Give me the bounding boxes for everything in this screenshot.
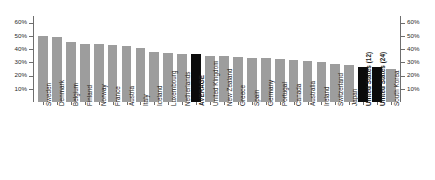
x-axis-label-luxembourg: Luxembourg bbox=[171, 70, 177, 106]
x-axis-label-united-states-24: United States (24) bbox=[380, 52, 386, 106]
y-axis-label-right-10pct: 10% bbox=[407, 86, 419, 92]
x-axis-label-germany: Germany bbox=[268, 80, 274, 106]
x-axis-label-australia: Australia bbox=[310, 81, 316, 106]
x-axis-label-average: AVERAGE bbox=[199, 75, 205, 106]
x-axis-label-spain: Spain bbox=[254, 90, 260, 106]
y-axis-label-left-60pct: 60% bbox=[15, 19, 27, 25]
x-axis-label-portugal: Portugal bbox=[282, 82, 288, 106]
x-axis-label-japan: Japan bbox=[352, 89, 358, 106]
y-axis-label-right-50pct: 50% bbox=[407, 33, 419, 39]
y-axis-tick-right-60pct bbox=[401, 23, 405, 24]
y-axis-tick-right-10pct bbox=[401, 89, 405, 90]
y-axis-tick-left-60pct bbox=[29, 23, 33, 24]
y-axis-label-left-10pct: 10% bbox=[15, 86, 27, 92]
x-axis-label-netherlands: Netherlands bbox=[185, 71, 191, 106]
y-axis-tick-right-20pct bbox=[401, 76, 405, 77]
y-axis-tick-right-40pct bbox=[401, 49, 405, 50]
x-axis-tick-25 bbox=[391, 102, 392, 105]
x-axis-label-united-kingdom: United Kingdom bbox=[213, 60, 219, 106]
x-axis-label-sweden: Sweden bbox=[46, 83, 52, 106]
bar-chart: 10%20%30%40%50%60% 10%20%30%40%50%60% Sw… bbox=[0, 0, 435, 180]
y-axis-label-right-30pct: 30% bbox=[407, 59, 419, 65]
x-axis-label-italy: Italy bbox=[143, 94, 149, 106]
y-axis-label-left-50pct: 50% bbox=[15, 33, 27, 39]
x-axis-tick-13 bbox=[224, 102, 225, 105]
y-axis-tick-left-20pct bbox=[29, 76, 33, 77]
y-axis-tick-left-40pct bbox=[29, 49, 33, 50]
x-axis-label-belgium: Belgium bbox=[73, 83, 79, 106]
x-axis-tick-12 bbox=[210, 102, 211, 105]
y-axis-label-right-40pct: 40% bbox=[407, 46, 419, 52]
x-axis-label-finland: Finland bbox=[87, 85, 93, 106]
x-axis-label-austria: Austria bbox=[129, 86, 135, 106]
x-axis-label-greece: Greece bbox=[240, 85, 246, 106]
x-axis-label-denmark: Denmark bbox=[59, 80, 65, 106]
x-axis-label-norway: Norway bbox=[101, 84, 107, 106]
y-axis-label-left-30pct: 30% bbox=[15, 59, 27, 65]
x-axis-tick-0 bbox=[43, 102, 44, 105]
x-axis-label-switzerland: Switzerland bbox=[338, 73, 344, 106]
x-axis-label-new-zealand: New Zealand bbox=[227, 68, 233, 106]
x-axis-label-france: France bbox=[115, 86, 121, 106]
x-axis-tick-11 bbox=[196, 102, 197, 105]
x-axis-label-canada: Canada bbox=[296, 84, 302, 106]
y-axis-tick-left-30pct bbox=[29, 62, 33, 63]
y-axis-label-right-60pct: 60% bbox=[407, 19, 419, 25]
y-axis-label-left-20pct: 20% bbox=[15, 72, 27, 78]
x-axis-tick-24 bbox=[377, 102, 378, 105]
x-axis-label-united-states-12: United States (12) bbox=[366, 52, 372, 106]
y-axis-left: 10%20%30%40%50%60% bbox=[33, 16, 34, 102]
y-axis-tick-right-50pct bbox=[401, 36, 405, 37]
y-axis-label-right-20pct: 20% bbox=[407, 72, 419, 78]
y-axis-tick-right-30pct bbox=[401, 62, 405, 63]
x-axis-label-south-korea: South Korea bbox=[394, 70, 400, 106]
y-axis-tick-left-10pct bbox=[29, 89, 33, 90]
y-axis-label-left-40pct: 40% bbox=[15, 46, 27, 52]
y-axis-tick-left-50pct bbox=[29, 36, 33, 37]
x-axis-label-ireland: Ireland bbox=[324, 86, 330, 106]
x-axis-label-iceland: Iceland bbox=[157, 85, 163, 106]
